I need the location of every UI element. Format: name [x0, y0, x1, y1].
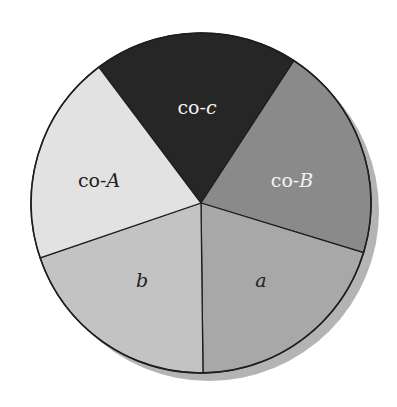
label-symbol: a	[255, 269, 266, 291]
label-prefix: co-	[271, 169, 300, 191]
label-symbol: c	[206, 96, 217, 118]
label-prefix: co-	[78, 169, 107, 191]
label-symbol: b	[136, 269, 148, 291]
wedge-label-a: a	[255, 269, 266, 291]
label-symbol: B	[298, 169, 313, 191]
label-symbol: A	[104, 169, 120, 191]
wedges-group	[31, 33, 371, 373]
wedge-label-b: b	[136, 269, 148, 291]
wedge-label-co-B: co-B	[271, 169, 314, 191]
pie-partition-diagram: co-cco-Babco-A	[0, 0, 397, 407]
wedge-label-co-c: co-c	[177, 96, 217, 118]
wedge-label-co-A: co-A	[78, 169, 120, 191]
label-prefix: co-	[177, 96, 206, 118]
